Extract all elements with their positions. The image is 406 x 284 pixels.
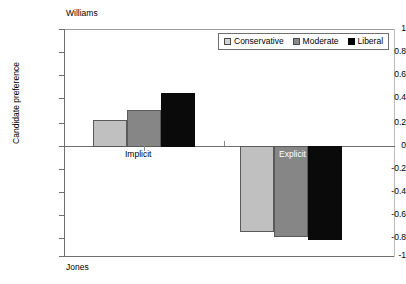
bar-implicit-conservative xyxy=(93,120,127,147)
y-tick-0.6 xyxy=(59,75,64,76)
legend-item-moderate: Moderate xyxy=(293,36,339,46)
category-tick-explicit xyxy=(224,141,225,146)
y-label--0.6: -0.6 xyxy=(358,210,406,219)
y-axis-title: Candidate preference xyxy=(11,43,21,163)
group-label-implicit: Implicit xyxy=(125,149,151,159)
group-label-explicit: Explicit xyxy=(279,149,306,159)
y-label--0.8: -0.8 xyxy=(358,233,406,242)
y-label-0.6: 0.6 xyxy=(358,70,406,79)
legend-swatch-moderate-icon xyxy=(293,38,300,45)
y-label--1: -1 xyxy=(358,251,406,260)
y-label--0.4: -0.4 xyxy=(358,187,406,196)
legend: Conservative Moderate Liberal xyxy=(218,33,389,50)
y-label--0.2: -0.2 xyxy=(358,164,406,173)
bar-chart: 1 0.8 0.6 0.4 0.2 0 -0.2 -0.4 -0.6 -0.8 … xyxy=(0,0,406,284)
bar-explicit-moderate xyxy=(274,146,308,237)
y-tick--1 xyxy=(59,256,64,257)
legend-label-moderate: Moderate xyxy=(303,36,339,46)
legend-label-liberal: Liberal xyxy=(358,36,384,46)
y-tick-0.2 xyxy=(59,123,64,124)
legend-swatch-liberal-icon xyxy=(348,38,355,45)
legend-swatch-conservative-icon xyxy=(224,38,231,45)
y-label-1: 1 xyxy=(358,24,406,33)
y-tick-1 xyxy=(59,29,64,30)
y-tick--0.6 xyxy=(59,215,64,216)
y-tick--0.8 xyxy=(59,238,64,239)
bar-explicit-conservative xyxy=(240,146,274,232)
y-tick-0.4 xyxy=(59,98,64,99)
bar-implicit-liberal xyxy=(161,93,195,147)
pole-label-williams: Williams xyxy=(66,8,98,18)
bar-explicit-liberal xyxy=(308,146,342,240)
pole-label-jones: Jones xyxy=(66,262,89,272)
legend-item-conservative: Conservative xyxy=(224,36,284,46)
legend-label-conservative: Conservative xyxy=(234,36,284,46)
y-label-0.2: 0.2 xyxy=(358,118,406,127)
axis-bottom-line xyxy=(64,256,395,257)
y-tick--0.2 xyxy=(59,169,64,170)
axis-left-line xyxy=(64,29,65,257)
y-label-0.4: 0.4 xyxy=(358,93,406,102)
legend-item-liberal: Liberal xyxy=(348,36,384,46)
y-tick--0.4 xyxy=(59,192,64,193)
y-tick-0.8 xyxy=(59,52,64,53)
axis-top-line xyxy=(64,29,395,30)
bar-implicit-moderate xyxy=(127,110,161,147)
